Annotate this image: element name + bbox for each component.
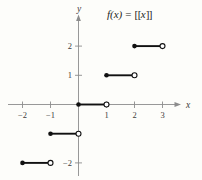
step-function-plot: −2−112321−2xy — [0, 0, 202, 180]
x-tick-label: 3 — [160, 110, 164, 120]
open-endpoint — [48, 160, 53, 165]
y-axis-arrowhead — [76, 15, 81, 22]
y-tick-label: 1 — [68, 70, 72, 80]
x-axis-label: x — [185, 100, 191, 110]
x-tick-label: 1 — [104, 110, 108, 120]
closed-endpoint — [20, 161, 25, 166]
function-name: f(x) — [107, 8, 122, 20]
function-title: f(x)=[[x]] — [107, 8, 152, 21]
closed-endpoint — [104, 73, 109, 78]
floor-function-figure: −2−112321−2xy f(x)=[[x]] — [0, 0, 202, 180]
open-endpoint — [132, 73, 137, 78]
y-axis-label: y — [76, 4, 82, 14]
y-tick-label: 2 — [68, 41, 72, 51]
closed-endpoint — [132, 44, 137, 49]
closed-endpoint — [48, 131, 53, 136]
closed-endpoint — [76, 102, 81, 107]
y-tick-label: −2 — [63, 158, 72, 168]
close-double-bracket: ]] — [146, 8, 152, 20]
open-endpoint — [76, 131, 81, 136]
open-endpoint — [160, 44, 165, 49]
x-tick-label: 2 — [132, 110, 136, 120]
equals-sign: = — [122, 8, 134, 20]
open-endpoint — [104, 102, 109, 107]
x-tick-label: −2 — [18, 110, 27, 120]
x-axis-arrowhead — [175, 102, 182, 107]
x-tick-label: −1 — [46, 110, 55, 120]
